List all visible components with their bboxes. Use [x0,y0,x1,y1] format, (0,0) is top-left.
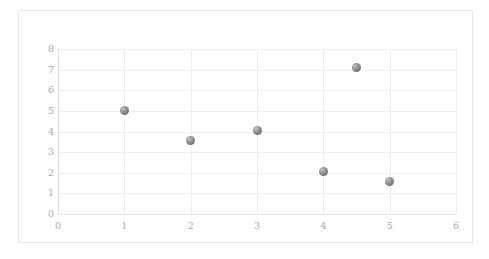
gridline-vertical [456,49,457,214]
y-axis-tick-label: 2 [32,168,54,178]
y-axis-tick-label: 1 [32,189,54,199]
y-axis-tick-label: 6 [32,86,54,96]
gridline-horizontal [58,214,456,215]
data-point-marker[interactable] [120,106,129,115]
gridline-vertical [58,49,59,214]
chart-card: 012345678 0123456 [18,10,473,243]
gridline-vertical [323,49,324,214]
x-axis-tick-label: 6 [443,221,469,231]
y-axis-tick-label: 3 [32,147,54,157]
gridline-vertical [390,49,391,214]
gridline-vertical [124,49,125,214]
data-point-marker[interactable] [385,177,394,186]
gridline-vertical [191,49,192,214]
x-axis-tick-label: 0 [45,221,71,231]
plot-area [58,49,456,214]
x-axis-tick-label: 1 [111,221,137,231]
data-point-marker[interactable] [319,167,328,176]
y-axis-tick-label: 8 [32,44,54,54]
y-axis-tick-label: 0 [32,209,54,219]
data-point-marker[interactable] [352,63,361,72]
x-axis-tick-labels: 0123456 [58,221,456,237]
x-axis-tick-label: 5 [377,221,403,231]
y-axis-tick-label: 4 [32,127,54,137]
y-axis-tick-label: 7 [32,65,54,75]
data-point-marker[interactable] [186,136,195,145]
x-axis-tick-label: 2 [178,221,204,231]
x-axis-tick-label: 4 [310,221,336,231]
y-axis-tick-labels: 012345678 [28,49,54,214]
x-axis-tick-label: 3 [244,221,270,231]
data-point-marker[interactable] [253,126,262,135]
y-axis-tick-label: 5 [32,106,54,116]
